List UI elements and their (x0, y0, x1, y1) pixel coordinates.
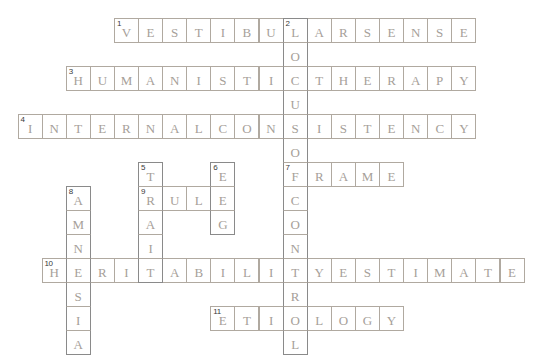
cell-r0-c4[interactable]: 1V (114, 18, 139, 43)
cell-r4-c13[interactable]: S (331, 114, 356, 139)
cell-r12-c14[interactable]: G (355, 306, 380, 331)
cell-r0-c5[interactable]: E (138, 18, 163, 43)
cell-r2-c17[interactable]: P (427, 66, 452, 91)
cell-r10-c8[interactable]: I (210, 258, 235, 283)
cell-r10-c6[interactable]: A (162, 258, 187, 283)
cell-r10-c15[interactable]: T (379, 258, 404, 283)
cell-r0-c9[interactable]: B (234, 18, 259, 43)
cell-r2-c13[interactable]: H (331, 66, 356, 91)
cell-r2-c7[interactable]: I (186, 66, 211, 91)
cell-r7-c2[interactable]: 8A (66, 186, 91, 211)
cell-r2-c15[interactable]: R (379, 66, 404, 91)
cell-r2-c12[interactable]: T (307, 66, 332, 91)
cell-r12-c12[interactable]: L (307, 306, 332, 331)
cell-r8-c11[interactable]: O (283, 210, 308, 235)
cell-r6-c14[interactable]: M (355, 162, 380, 187)
cell-r2-c9[interactable]: T (234, 66, 259, 91)
cell-r2-c3[interactable]: U (90, 66, 115, 91)
cell-r8-c5[interactable]: A (138, 210, 163, 235)
cell-r10-c3[interactable]: R (90, 258, 115, 283)
cell-r4-c3[interactable]: E (90, 114, 115, 139)
cell-r10-c19[interactable]: T (475, 258, 500, 283)
cell-r4-c17[interactable]: C (427, 114, 452, 139)
cell-r10-c10[interactable]: I (259, 258, 284, 283)
cell-r4-c4[interactable]: R (114, 114, 139, 139)
cell-r1-c11[interactable]: O (283, 42, 308, 67)
cell-r12-c10[interactable]: I (259, 306, 284, 331)
cell-r4-c5[interactable]: N (138, 114, 163, 139)
cell-r7-c11[interactable]: C (283, 186, 308, 211)
cell-r3-c11[interactable]: U (283, 90, 308, 115)
cell-r12-c13[interactable]: O (331, 306, 356, 331)
cell-r4-c10[interactable]: N (259, 114, 284, 139)
cell-r10-c7[interactable]: B (186, 258, 211, 283)
cell-r12-c15[interactable]: Y (379, 306, 404, 331)
cell-r6-c5[interactable]: 5T (138, 162, 163, 187)
cell-r0-c11[interactable]: 2L (283, 18, 308, 43)
cell-r0-c18[interactable]: E (451, 18, 476, 43)
cell-r10-c13[interactable]: E (331, 258, 356, 283)
cell-r2-c18[interactable]: Y (451, 66, 476, 91)
cell-r10-c1[interactable]: 10H (42, 258, 67, 283)
cell-r2-c2[interactable]: 3H (66, 66, 91, 91)
cell-r6-c15[interactable]: E (379, 162, 404, 187)
cell-r9-c11[interactable]: N (283, 234, 308, 259)
cell-r10-c2[interactable]: E (66, 258, 91, 283)
cell-r7-c6[interactable]: U (162, 186, 187, 211)
cell-r0-c12[interactable]: A (307, 18, 332, 43)
cell-r4-c9[interactable]: O (234, 114, 259, 139)
cell-r11-c2[interactable]: S (66, 282, 91, 307)
cell-r4-c7[interactable]: L (186, 114, 211, 139)
cell-r2-c8[interactable]: S (210, 66, 235, 91)
cell-r2-c5[interactable]: A (138, 66, 163, 91)
cell-r4-c15[interactable]: E (379, 114, 404, 139)
cell-r7-c5[interactable]: 9R (138, 186, 163, 211)
cell-r0-c10[interactable]: U (259, 18, 284, 43)
cell-r9-c5[interactable]: I (138, 234, 163, 259)
cell-r10-c4[interactable]: I (114, 258, 139, 283)
cell-r10-c14[interactable]: S (355, 258, 380, 283)
cell-r9-c2[interactable]: N (66, 234, 91, 259)
cell-r0-c16[interactable]: N (403, 18, 428, 43)
cell-r8-c8[interactable]: G (210, 210, 235, 235)
cell-r0-c8[interactable]: I (210, 18, 235, 43)
cell-r10-c5[interactable]: T (138, 258, 163, 283)
cell-r6-c12[interactable]: R (307, 162, 332, 187)
cell-r6-c13[interactable]: A (331, 162, 356, 187)
cell-r13-c2[interactable]: A (66, 330, 91, 355)
cell-r2-c6[interactable]: N (162, 66, 187, 91)
cell-r10-c12[interactable]: Y (307, 258, 332, 283)
cell-r4-c8[interactable]: C (210, 114, 235, 139)
cell-r0-c14[interactable]: S (355, 18, 380, 43)
cell-r10-c16[interactable]: I (403, 258, 428, 283)
cell-r11-c11[interactable]: R (283, 282, 308, 307)
cell-r7-c8[interactable]: E (210, 186, 235, 211)
cell-r10-c18[interactable]: A (451, 258, 476, 283)
cell-r12-c11[interactable]: O (283, 306, 308, 331)
cell-r4-c2[interactable]: T (66, 114, 91, 139)
cell-r10-c17[interactable]: M (427, 258, 452, 283)
cell-r7-c7[interactable]: L (186, 186, 211, 211)
cell-r2-c10[interactable]: I (259, 66, 284, 91)
cell-r6-c11[interactable]: 7F (283, 162, 308, 187)
cell-r4-c6[interactable]: A (162, 114, 187, 139)
cell-r0-c6[interactable]: S (162, 18, 187, 43)
cell-r4-c18[interactable]: Y (451, 114, 476, 139)
cell-r0-c7[interactable]: T (186, 18, 211, 43)
cell-r2-c14[interactable]: E (355, 66, 380, 91)
cell-r0-c15[interactable]: E (379, 18, 404, 43)
cell-r12-c8[interactable]: 11E (210, 306, 235, 331)
cell-r2-c16[interactable]: A (403, 66, 428, 91)
cell-r12-c9[interactable]: T (234, 306, 259, 331)
cell-r8-c2[interactable]: M (66, 210, 91, 235)
cell-r2-c11[interactable]: C (283, 66, 308, 91)
cell-r2-c4[interactable]: M (114, 66, 139, 91)
cell-r4-c1[interactable]: N (42, 114, 67, 139)
cell-r0-c17[interactable]: S (427, 18, 452, 43)
cell-r10-c11[interactable]: T (283, 258, 308, 283)
cell-r6-c8[interactable]: 6E (210, 162, 235, 187)
cell-r0-c13[interactable]: R (331, 18, 356, 43)
cell-r4-c16[interactable]: N (403, 114, 428, 139)
cell-r4-c0[interactable]: 4I (18, 114, 43, 139)
cell-r5-c11[interactable]: O (283, 138, 308, 163)
